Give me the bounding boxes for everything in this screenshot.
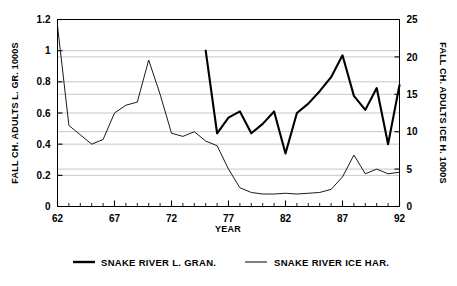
y-tick-label-left: 1.2 — [37, 14, 51, 25]
x-tick-label: 72 — [166, 213, 178, 224]
x-tick-label: 67 — [109, 213, 121, 224]
y-tick-label-left: 0.2 — [37, 170, 51, 181]
x-tick-label: 77 — [223, 213, 235, 224]
y-tick-label-right: 20 — [407, 52, 419, 63]
x-tick-label: 82 — [280, 213, 292, 224]
y-tick-label-left: 0.6 — [37, 108, 51, 119]
y-tick-label-right: 10 — [407, 126, 419, 137]
chart-figure: 62677277828792 00.20.40.60.811.2 0510152… — [0, 0, 457, 286]
y-tick-label-right: 25 — [407, 14, 419, 25]
x-tick-label: 92 — [394, 213, 406, 224]
fall-chinook-adults-line-chart: 62677277828792 00.20.40.60.811.2 0510152… — [0, 0, 457, 286]
y-axis-left-title: FALL CH. ADULTS L. GR. 1000S — [10, 42, 20, 183]
y-tick-label-left: 0 — [45, 201, 51, 212]
y-tick-label-right: 5 — [407, 164, 413, 175]
y-tick-label-left: 0.4 — [37, 139, 51, 150]
x-tick-label: 62 — [52, 213, 64, 224]
legend-label-ice-har: SNAKE RIVER ICE HAR. — [274, 257, 389, 268]
legend-label-l-gran: SNAKE RIVER L. GRAN. — [101, 257, 216, 268]
y-tick-label-right: 0 — [407, 201, 413, 212]
x-axis-title: YEAR — [215, 224, 241, 234]
y-tick-label-left: 1 — [45, 45, 51, 56]
y-axis-right-title: FALL CH. ADULTS ICE H. 1000S — [438, 42, 448, 183]
x-tick-label: 87 — [337, 213, 349, 224]
y-tick-label-right: 15 — [407, 89, 419, 100]
y-tick-label-left: 0.8 — [37, 76, 51, 87]
